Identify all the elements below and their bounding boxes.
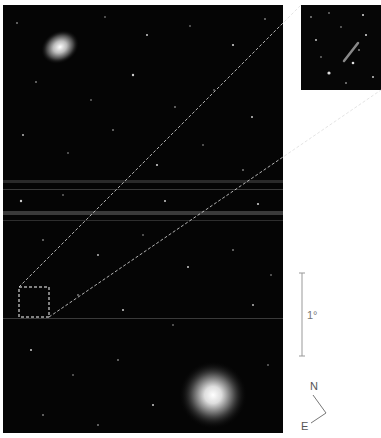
- compass-east-label: E: [301, 420, 308, 432]
- compass-arrows: [311, 395, 326, 423]
- star-field: [3, 5, 283, 433]
- inset-star-field: [301, 5, 381, 90]
- scale-bar-label: 1°: [307, 309, 318, 321]
- elongated-object: [344, 43, 358, 61]
- main-star-field-image: [3, 5, 283, 433]
- inset-zoom-image: [301, 5, 381, 90]
- compass-north-label: N: [310, 380, 318, 392]
